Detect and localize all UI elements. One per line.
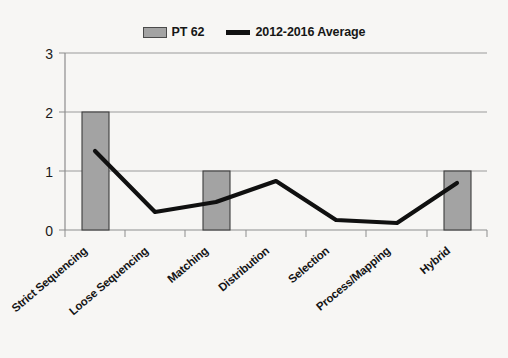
chart-plot: 3 2 1 0 Strict Sequencing Loose Sequenci… — [0, 0, 508, 358]
bar-strict-sequencing — [82, 112, 109, 230]
x-label-distribution: Distribution — [216, 244, 271, 293]
x-label-matching: Matching — [165, 244, 210, 285]
chart-container: PT 62 2012-2016 Average 3 2 1 0 — [0, 0, 508, 358]
y-axis-tick-labels: 3 2 1 0 — [45, 46, 53, 239]
y-tick-label-2: 2 — [45, 105, 53, 121]
x-label-hybrid: Hybrid — [418, 244, 453, 276]
y-tick-label-3: 3 — [45, 46, 53, 62]
y-tick-label-1: 1 — [45, 164, 53, 180]
line-series-2012-2016-average — [95, 151, 457, 223]
bar-hybrid — [444, 171, 471, 230]
y-tick-label-0: 0 — [45, 223, 53, 239]
y-axis-ticks — [59, 53, 65, 230]
x-label-selection: Selection — [286, 244, 332, 285]
x-axis-ticks — [65, 230, 487, 237]
x-axis-category-labels: Strict Sequencing Loose Sequencing Match… — [9, 244, 452, 317]
